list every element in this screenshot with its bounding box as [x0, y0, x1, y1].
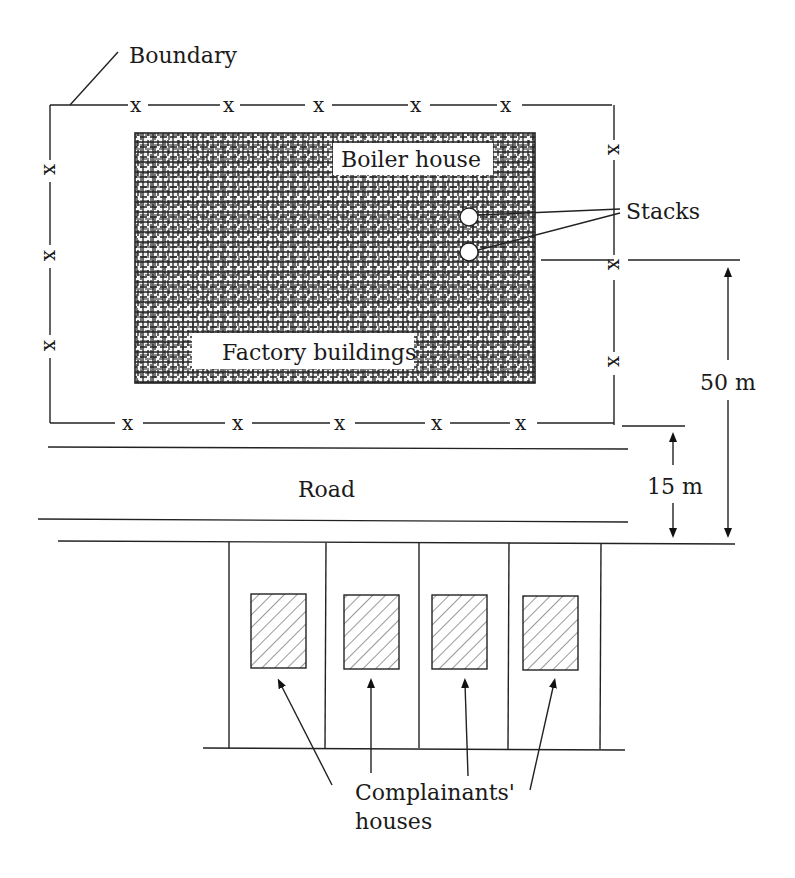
factory-buildings-label: Factory buildings	[222, 340, 416, 365]
stack-icon	[460, 243, 478, 261]
fence-marker: x	[223, 93, 235, 117]
boiler-house-label: Boiler house	[341, 147, 481, 172]
complainants-label-line2: houses	[355, 809, 432, 834]
house-plot-3	[432, 595, 487, 669]
fence-marker: x	[603, 259, 627, 271]
factory-block: Boiler house Factory buildings	[135, 133, 535, 383]
complainants-arrows	[280, 683, 554, 790]
stacks-label: Stacks	[626, 199, 700, 224]
fence-marker: x	[39, 164, 63, 176]
fence-marker: x	[122, 411, 134, 435]
road: Road	[38, 447, 628, 522]
fence-marker: x	[410, 93, 422, 117]
fence-marker: x	[130, 93, 142, 117]
boundary-label-group: Boundary	[70, 43, 237, 105]
distance-15m-label: 15 m	[647, 474, 703, 499]
site-plan-diagram: Boundary x x x x x x x x x x x	[0, 0, 795, 878]
fence-marker: x	[39, 250, 63, 262]
stack-icon	[460, 208, 478, 226]
fence-marker: x	[603, 144, 627, 156]
fence-marker: x	[334, 411, 346, 435]
house-plot-4	[523, 596, 578, 670]
fence-marker: x	[515, 411, 527, 435]
fence-marker: x	[603, 356, 627, 368]
fence-marker: x	[232, 411, 244, 435]
houses-row	[58, 541, 735, 750]
fence-marker: x	[39, 340, 63, 352]
fence-marker: x	[313, 93, 325, 117]
dimension-15m: 15 m	[622, 426, 703, 533]
complainants-label-line1: Complainants'	[355, 780, 515, 805]
house-plot-1	[251, 594, 306, 668]
boundary-label: Boundary	[129, 43, 237, 68]
house-plot-2	[344, 595, 399, 669]
complainants-label-group: Complainants' houses	[355, 780, 515, 834]
fence-marker: x	[431, 411, 443, 435]
boundary-leader-line	[70, 52, 118, 105]
road-label: Road	[298, 477, 355, 502]
distance-50m-label: 50 m	[700, 370, 756, 395]
fence-marker: x	[500, 93, 512, 117]
